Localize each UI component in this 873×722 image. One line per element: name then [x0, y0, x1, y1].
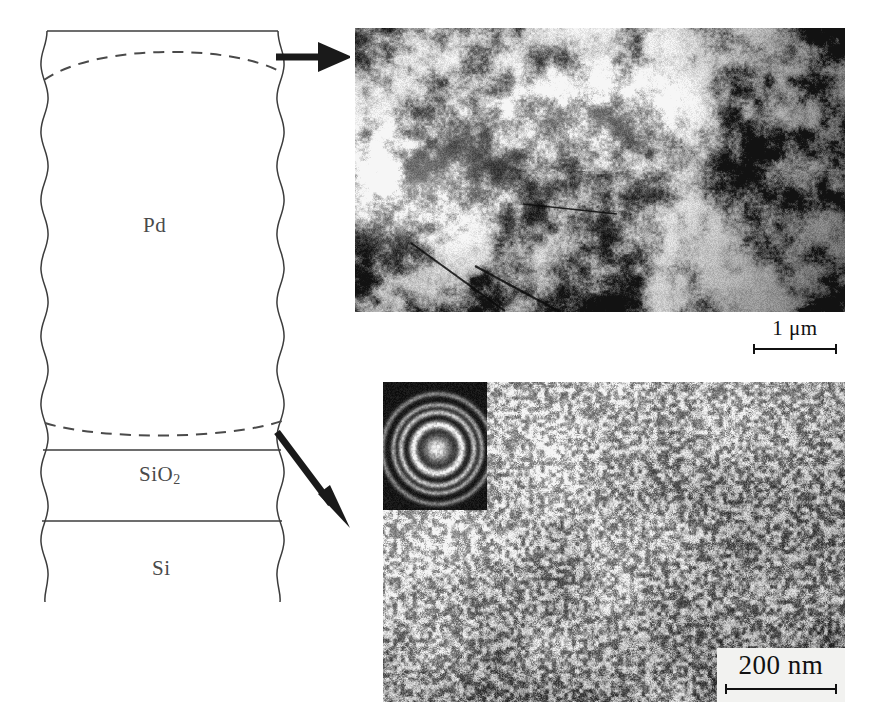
top-scalebar: 1 μm [745, 316, 845, 364]
right-wavy-edge [277, 31, 284, 602]
top-scalebar-rule [753, 344, 837, 354]
schematic-svg [0, 0, 350, 722]
bottom-scalebar-tick-right [835, 684, 837, 694]
top-surface-dashed-arc [44, 52, 281, 80]
top-scalebar-line [753, 348, 837, 350]
top-micrograph-image [355, 28, 845, 312]
pd-sio2-interface-dashed-arc [45, 421, 282, 436]
bottom-scalebar-line [725, 688, 837, 690]
top-scalebar-tick-left [753, 344, 755, 354]
top-scalebar-tick-right [835, 344, 837, 354]
layer-label-sio2-subscript: 2 [173, 472, 181, 487]
saed-diffraction-image [383, 382, 487, 510]
top-scalebar-label: 1 μm [745, 316, 845, 341]
left-wavy-edge [41, 31, 48, 602]
bottom-scalebar-tick-left [725, 684, 727, 694]
layer-label-si: Si [152, 556, 171, 581]
bottom-scalebar-rule [725, 684, 837, 694]
bottom-scalebar: 200 nm [717, 648, 845, 702]
figure-root: Pd SiO2 Si High contrast plan-view TEM i… [0, 0, 873, 722]
bottom-scalebar-label: 200 nm [717, 650, 845, 681]
layer-label-pd: Pd [143, 213, 166, 238]
top-micrograph: High contrast plan-view TEM image of Pd … [355, 28, 845, 312]
arrow-to-bottom-micrograph [277, 432, 350, 528]
layer-label-sio2-main: SiO [139, 462, 173, 486]
arrow-to-top-micrograph [276, 42, 350, 72]
layer-label-sio2: SiO2 [139, 462, 181, 488]
saed-diffraction-inset: Dark-field diffraction pattern with brig… [383, 382, 487, 510]
cross-section-stack-schematic: Pd SiO2 Si [0, 0, 350, 722]
